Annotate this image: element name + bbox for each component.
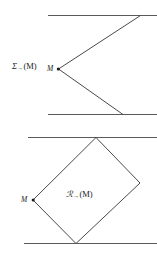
figure-container: Σ→(M) M ℛ→(M) M — [0, 0, 157, 256]
diagram-canvas — [0, 0, 157, 256]
lower-point-label-m: M — [21, 195, 27, 204]
sigma-argument: (M) — [23, 61, 36, 71]
upper-wedge-lower-ray — [59, 69, 124, 115]
lower-panel-label: ℛ→(M) — [66, 189, 93, 199]
upper-panel-group — [48, 16, 157, 115]
lower-vertex-point-marker — [32, 198, 35, 201]
upper-wedge-upper-ray — [59, 16, 141, 70]
script-r-argument: (M) — [79, 189, 92, 199]
upper-point-label-m: M — [47, 64, 53, 73]
script-r-symbol: ℛ — [66, 189, 73, 199]
upper-panel-label: Σ→(M) — [12, 61, 37, 71]
upper-vertex-point-marker — [57, 67, 60, 70]
